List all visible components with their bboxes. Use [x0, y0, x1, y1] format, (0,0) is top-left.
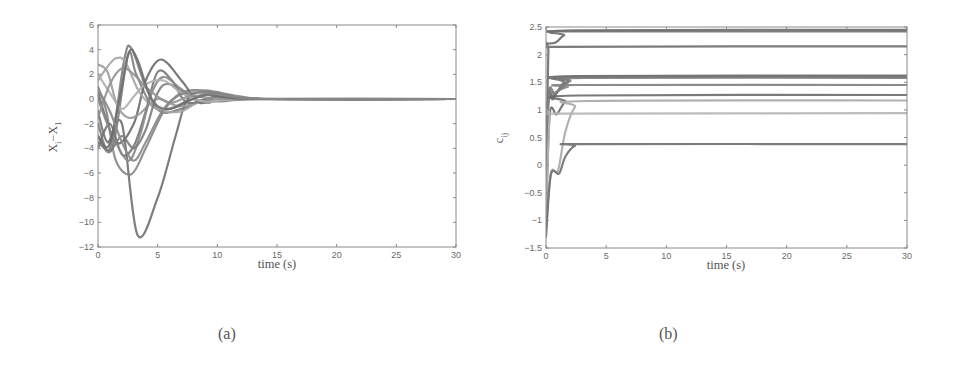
chart-a: 051015202530−12−10−8−6−4−20246 time (s) …: [0, 0, 479, 300]
series-line-c10: [526, 108, 907, 215]
plot-area-a: [98, 46, 456, 238]
x-tick-label: 30: [451, 250, 461, 260]
x-tick-label: 0: [543, 251, 548, 261]
x-tick-label: 5: [155, 250, 160, 260]
y-tick-label: −2: [84, 119, 94, 129]
x-axis-label-a: time (s): [258, 257, 297, 271]
y-tick-label: 2: [89, 69, 94, 79]
x-tick-label: 10: [661, 251, 671, 261]
y-tick-label: −4: [84, 143, 94, 153]
chart-b: 051015202530−1.5−1−0.500.511.522.5 time …: [479, 0, 958, 300]
x-tick-label: 20: [782, 251, 792, 261]
series-line-c9: [546, 100, 907, 231]
y-tick-label: −12: [79, 242, 94, 252]
y-tick-label: 6: [89, 20, 94, 30]
x-tick-label: 10: [212, 250, 222, 260]
y-tick-label: −6: [84, 168, 94, 178]
x-tick-label: 0: [95, 250, 100, 260]
y-axis-label-b: cij: [492, 133, 509, 143]
y-tick-label: 0: [537, 160, 542, 170]
series-line-c3: [525, 37, 907, 225]
plot-area-b: [525, 30, 907, 237]
figure-a: 051015202530−12−10−8−6−4−20246 time (s) …: [0, 0, 479, 300]
y-tick-label: 1.5: [529, 77, 542, 87]
x-axis-label-b: time (s): [707, 258, 746, 272]
y-tick-label: −8: [84, 193, 94, 203]
y-tick-label: −1.5: [524, 243, 542, 253]
caption-b: (b): [659, 325, 678, 343]
x-tick-label: 25: [391, 250, 401, 260]
y-tick-label: −1: [532, 215, 542, 225]
svg-text:Xi−X1: Xi−X1: [46, 121, 63, 152]
y-tick-label: −10: [79, 217, 94, 227]
series-line-c11: [546, 144, 907, 237]
y-label-a-main: X: [46, 144, 60, 153]
y-tick-label: 0: [89, 94, 94, 104]
x-tick-label: 5: [604, 251, 609, 261]
x-tick-label: 20: [332, 250, 342, 260]
y-label-b-sub: ij: [499, 133, 509, 138]
y-tick-label: −0.5: [524, 188, 542, 198]
axes-b: 051015202530−1.5−1−0.500.511.522.5: [524, 22, 912, 261]
x-tick-label: 30: [902, 251, 912, 261]
x-tick-label: 25: [842, 251, 852, 261]
figure-b: 051015202530−1.5−1−0.500.511.522.5 time …: [479, 0, 958, 300]
y-tick-label: 4: [89, 45, 94, 55]
y-axis-label-a: Xi−X1: [46, 121, 63, 152]
y-tick-label: 0.5: [529, 133, 542, 143]
caption-a: (a): [218, 325, 236, 343]
series-line-c4: [546, 76, 907, 221]
svg-text:cij: cij: [492, 133, 509, 143]
y-label-a-mid: −X: [46, 126, 60, 142]
y-label-a-sub2: 1: [53, 121, 63, 126]
y-tick-label: 2: [537, 50, 542, 60]
y-tick-label: 1: [537, 105, 542, 115]
series-line-c5: [546, 76, 907, 214]
y-tick-label: 2.5: [529, 22, 542, 32]
plot-frame: [546, 27, 907, 248]
series-line-c7: [546, 85, 907, 221]
